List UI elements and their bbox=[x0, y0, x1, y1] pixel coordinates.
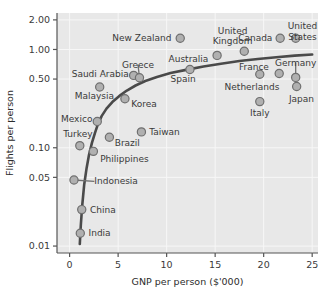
x-tick-label-5: 25 bbox=[306, 259, 318, 270]
chart-container: IndiaChinaIndonesiaPhilippinesTurkeyBraz… bbox=[0, 0, 325, 303]
marker-turkey[interactable] bbox=[76, 142, 84, 150]
y-tick-label-0: 2.00 bbox=[29, 14, 50, 25]
y-tick-label-5: 0.01 bbox=[29, 240, 50, 251]
y-tick-label-4: 0.05 bbox=[29, 172, 50, 183]
label-india: India bbox=[89, 228, 111, 238]
y-axis-title: Flights per person bbox=[4, 90, 15, 176]
y-tick-label-1: 1.00 bbox=[29, 44, 50, 55]
label-japan: Japan bbox=[288, 94, 314, 104]
label-turkey: Turkey bbox=[62, 129, 93, 139]
x-tick-label-1: 5 bbox=[115, 259, 121, 270]
label-netherlands: Netherlands bbox=[225, 82, 280, 92]
marker-australia[interactable] bbox=[213, 51, 221, 59]
label-spain: Spain bbox=[171, 74, 196, 84]
x-axis-title: GNP per person ($'000) bbox=[132, 276, 244, 287]
label-philippines: Philippines bbox=[100, 154, 149, 164]
label-saudi-arabia: Saudi Arabia bbox=[72, 69, 129, 79]
label-china: China bbox=[90, 205, 116, 215]
marker-china[interactable] bbox=[78, 205, 86, 213]
x-tick-label-4: 20 bbox=[258, 259, 270, 270]
label-new-zealand: New Zealand bbox=[112, 33, 171, 43]
marker-korea[interactable] bbox=[121, 95, 129, 103]
marker-canada[interactable] bbox=[276, 34, 284, 42]
y-tick-label-3: 0.10 bbox=[29, 142, 50, 153]
marker-japan[interactable] bbox=[293, 82, 301, 90]
label-australia: Australia bbox=[169, 54, 209, 64]
marker-united-kingdom[interactable] bbox=[240, 47, 248, 55]
label-malaysia: Malaysia bbox=[75, 91, 114, 101]
marker-greece[interactable] bbox=[135, 74, 143, 82]
label-korea: Korea bbox=[131, 99, 157, 109]
marker-philippines[interactable] bbox=[89, 147, 97, 155]
marker-spain[interactable] bbox=[186, 65, 194, 73]
marker-indonesia[interactable] bbox=[70, 176, 78, 184]
marker-brazil[interactable] bbox=[105, 133, 113, 141]
label-united-states: UnitedStates bbox=[288, 21, 318, 42]
x-tick-label-3: 15 bbox=[209, 259, 221, 270]
marker-taiwan[interactable] bbox=[137, 128, 145, 136]
label-mexico: Mexico bbox=[61, 114, 93, 124]
x-tick-label-2: 10 bbox=[161, 259, 173, 270]
label-brazil: Brazil bbox=[115, 138, 140, 148]
marker-italy[interactable] bbox=[256, 97, 264, 105]
marker-india[interactable] bbox=[76, 229, 84, 237]
label-indonesia: Indonesia bbox=[94, 176, 138, 186]
marker-netherlands[interactable] bbox=[275, 69, 283, 77]
y-tick-label-2: 0.50 bbox=[29, 73, 50, 84]
x-tick-label-0: 0 bbox=[67, 259, 73, 270]
label-italy: Italy bbox=[250, 108, 270, 118]
label-germany: Germany bbox=[275, 58, 317, 68]
scatter-plot: IndiaChinaIndonesiaPhilippinesTurkeyBraz… bbox=[0, 0, 325, 303]
label-france: France bbox=[239, 62, 269, 72]
marker-malaysia[interactable] bbox=[96, 83, 104, 91]
label-greece: Greece bbox=[122, 60, 154, 70]
marker-new-zealand[interactable] bbox=[176, 34, 184, 42]
marker-germany[interactable] bbox=[292, 73, 300, 81]
label-taiwan: Taiwan bbox=[148, 127, 180, 137]
marker-mexico[interactable] bbox=[93, 117, 101, 125]
label-canada: Canada bbox=[238, 33, 272, 43]
